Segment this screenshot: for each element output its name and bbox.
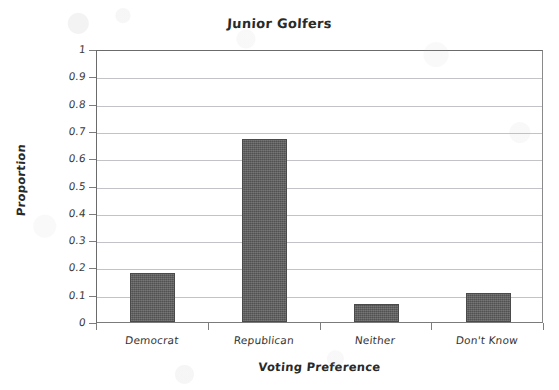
x-axis-title: Voting Preference [95,360,543,374]
y-tick-mark [89,77,96,78]
y-tick-label-wrap: 0.7 [40,125,86,139]
y-tick-label-wrap: 0.6 [40,152,86,166]
x-tick-mark [208,323,209,330]
x-tick-mark [543,323,544,330]
y-tick-mark [89,296,96,297]
y-tick-label: 0.9 [41,70,86,82]
y-axis-title: Proportion [14,114,28,245]
y-tick-mark [89,50,96,51]
y-tick-label-wrap: 0.1 [40,289,86,303]
y-tick-label-wrap: 1 [40,43,86,57]
x-category-label: Neither [315,334,436,346]
gridline [97,106,542,107]
y-tick-mark [89,241,96,242]
gridline [97,188,542,189]
chart-title: Junior Golfers [0,16,559,31]
y-tick-label-wrap: 0 [40,316,86,330]
y-tick-label: 0.5 [41,180,86,192]
x-tick-mark [96,323,97,330]
x-category-label: Don't Know [426,334,547,346]
y-tick-mark [89,159,96,160]
bar-chart-figure: Junior Golfers Proportion 00.10.20.30.40… [0,0,559,390]
y-tick-mark [89,187,96,188]
y-tick-label-wrap: 0.8 [40,98,86,112]
gridline [97,160,542,161]
bar [354,304,399,322]
y-tick-label: 0.6 [41,152,86,164]
y-tick-label-wrap: 0.5 [40,180,86,194]
x-tick-mark [320,323,321,330]
y-tick-label-wrap: 0.3 [40,234,86,248]
gridline [97,133,542,134]
y-tick-label: 0 [41,316,86,328]
gridline [97,269,542,270]
x-tick-mark [431,323,432,330]
y-tick-mark [89,214,96,215]
plot-area [96,50,543,323]
y-tick-label: 1 [41,43,86,55]
y-tick-label-wrap: 0.2 [40,261,86,275]
y-tick-label-wrap: 0.9 [40,70,86,84]
y-tick-label: 0.1 [41,289,86,301]
y-tick-label: 0.4 [41,207,86,219]
x-category-label: Republican [203,334,324,346]
y-tick-label: 0.7 [41,125,86,137]
y-tick-label: 0.3 [41,234,86,246]
gridline [97,242,542,243]
y-tick-label: 0.2 [41,261,86,273]
bar [242,139,287,322]
x-category-label: Democrat [91,334,212,346]
y-tick-mark [89,105,96,106]
y-tick-mark [89,268,96,269]
bar [130,273,175,322]
y-tick-mark [89,323,96,324]
y-tick-label: 0.8 [41,98,86,110]
gridline [97,215,542,216]
y-tick-mark [89,132,96,133]
bar [466,293,511,322]
gridline [97,78,542,79]
y-tick-label-wrap: 0.4 [40,207,86,221]
